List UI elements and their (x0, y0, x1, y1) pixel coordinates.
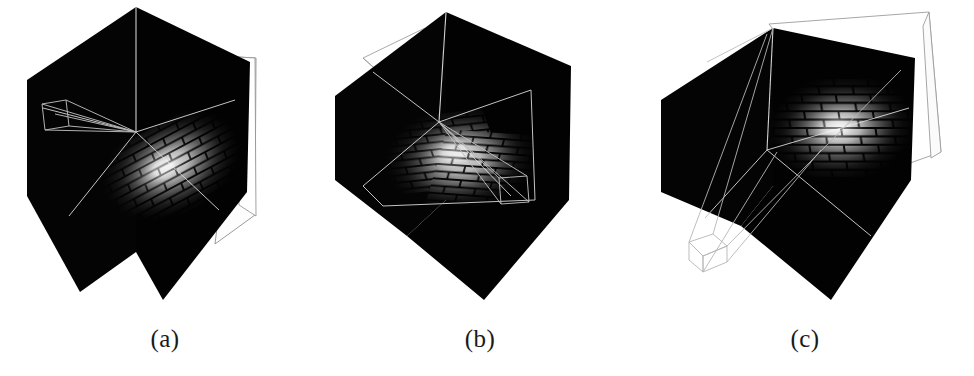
panel-a (3, 0, 327, 320)
caption-panel-b: (b) (420, 318, 540, 360)
figure-container: (a) (b) (c) (0, 0, 974, 376)
caption-panel-a: (a) (105, 318, 225, 360)
caption-row: (a) (b) (c) (0, 318, 974, 376)
panel-c (645, 0, 969, 320)
caption-panel-c: (c) (745, 318, 865, 360)
brick-texture-patch (645, 0, 969, 320)
panel-b (321, 0, 645, 320)
